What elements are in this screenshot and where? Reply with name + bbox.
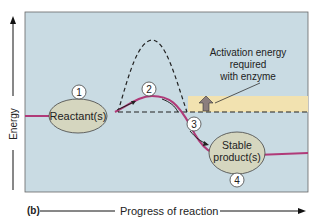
x-axis-label: Progress of reaction [120, 205, 218, 217]
product-label-line1: Stable [222, 139, 252, 151]
svg-text:2: 2 [146, 84, 152, 95]
step-2: 2 [142, 82, 156, 96]
panel-label: (b) [27, 205, 40, 216]
energy-diagram: Reactant(s) Stable product(s) 1 2 3 4 Ac… [0, 0, 316, 224]
annotation-line3: with enzyme [219, 71, 276, 82]
reactant-label: Reactant(s) [50, 110, 107, 122]
annotation-line2: required [230, 59, 267, 70]
step-3: 3 [187, 117, 201, 131]
svg-text:4: 4 [234, 175, 240, 186]
annotation-line1: Activation energy [210, 47, 287, 58]
product-label-line2: product(s) [213, 151, 260, 163]
x-axis-arrow-icon [298, 208, 306, 214]
step-1: 1 [72, 85, 86, 99]
y-axis-arrow-icon [10, 16, 16, 24]
step-4: 4 [230, 173, 244, 187]
svg-text:1: 1 [76, 87, 82, 98]
svg-text:3: 3 [191, 119, 197, 130]
y-axis-label: Energy [8, 108, 19, 140]
